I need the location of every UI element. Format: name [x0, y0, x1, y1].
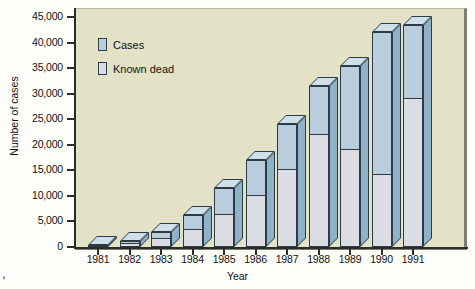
- y-tick-mark: [67, 16, 74, 18]
- bar-1983: [151, 223, 171, 247]
- x-tick-label-1989: 1989: [332, 253, 368, 265]
- bar-front-face: [277, 124, 297, 247]
- bar-side-face: [392, 23, 401, 247]
- bar-front-face: [214, 188, 234, 247]
- bar-side-face: [329, 77, 338, 247]
- y-tick-label: 5,000: [0, 214, 63, 226]
- bar-front-face: [151, 232, 171, 247]
- y-tick-mark: [67, 246, 74, 248]
- corner-glyph: ,: [2, 266, 6, 281]
- y-tick-mark: [67, 169, 74, 171]
- bar-side-face: [266, 151, 275, 247]
- bar-1987: [277, 115, 297, 247]
- bar-known-dead-segment: [247, 195, 265, 246]
- x-tick-label-1990: 1990: [364, 253, 400, 265]
- bar-front-face: [340, 66, 360, 247]
- bar-known-dead-segment: [341, 149, 359, 246]
- bar-front-face: [246, 160, 266, 247]
- y-tick-mark: [67, 42, 74, 44]
- bar-1984: [183, 206, 203, 247]
- x-tick-label-1991: 1991: [395, 253, 431, 265]
- x-tick-label-1983: 1983: [143, 253, 179, 265]
- bar-front-face: [309, 86, 329, 247]
- bar-side-face: [423, 16, 432, 247]
- bar-known-dead-segment: [121, 243, 139, 246]
- bar-known-dead-segment: [373, 174, 391, 246]
- x-tick-label-1987: 1987: [269, 253, 305, 265]
- x-tick-label-1988: 1988: [301, 253, 337, 265]
- bar-known-dead-segment: [278, 169, 296, 246]
- bar-1981: [88, 236, 108, 247]
- x-tick-label-1986: 1986: [238, 253, 274, 265]
- bar-1991: [403, 16, 423, 247]
- y-tick-mark: [67, 144, 74, 146]
- y-tick-label: 0: [0, 240, 63, 252]
- y-tick-mark: [67, 118, 74, 120]
- bar-front-face: [183, 215, 203, 247]
- y-tick-mark: [67, 195, 74, 197]
- bar-1985: [214, 179, 234, 247]
- x-axis-title: Year: [0, 270, 475, 282]
- y-tick-label: 40,000: [0, 36, 63, 48]
- bar-known-dead-segment: [310, 134, 328, 246]
- x-tick-label-1984: 1984: [175, 253, 211, 265]
- bar-front-face: [372, 32, 392, 247]
- bar-side-face: [234, 179, 243, 247]
- bar-front-face: [120, 241, 140, 247]
- bar-known-dead-segment: [215, 214, 233, 246]
- bar-known-dead-segment: [404, 98, 422, 246]
- x-tick-label-1982: 1982: [112, 253, 148, 265]
- bar-group: [75, 8, 467, 247]
- x-tick-label-1981: 1981: [80, 253, 116, 265]
- bar-front-face: [403, 25, 423, 247]
- bar-side-face: [297, 115, 306, 247]
- bar-known-dead-segment: [152, 238, 170, 246]
- y-tick-label: 45,000: [0, 10, 63, 22]
- y-tick-label: 10,000: [0, 189, 63, 201]
- y-tick-mark: [67, 93, 74, 95]
- bar-side-face: [360, 57, 369, 247]
- bar-1986: [246, 151, 266, 247]
- bar-1988: [309, 77, 329, 247]
- x-tick-label-1985: 1985: [206, 253, 242, 265]
- bar-1989: [340, 57, 360, 247]
- y-tick-mark: [67, 220, 74, 222]
- chart-root: 05,00010,00015,00020,00025,00030,00035,0…: [0, 0, 475, 289]
- bar-known-dead-segment: [184, 229, 202, 246]
- bar-front-face: [88, 245, 108, 247]
- y-tick-mark: [67, 67, 74, 69]
- bar-1982: [120, 232, 140, 247]
- bar-1990: [372, 23, 392, 247]
- x-axis-line: [74, 247, 468, 249]
- y-axis-title: Number of cases: [8, 66, 20, 166]
- bar-known-dead-segment: [89, 245, 107, 246]
